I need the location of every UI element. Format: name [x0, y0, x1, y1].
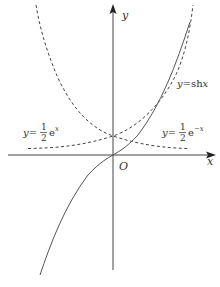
svg-text:y=shx: y=shx — [176, 78, 209, 89]
label-half-exp-pos-exp: x — [55, 125, 59, 133]
label-sinh-var: x — [203, 78, 209, 89]
y-axis-label: y — [121, 9, 129, 22]
label-sinh-func: sh — [191, 78, 203, 89]
origin-label: O — [119, 160, 128, 173]
x-axis-label: x — [207, 155, 214, 168]
function-graph-canvas: y x O y=shx y= 1 2 e x y= 1 2 e −x — [0, 0, 220, 287]
label-half-exp-pos-num: 1 — [41, 122, 47, 132]
label-sinh-prefix: y= — [176, 78, 191, 89]
label-sinh: y=shx — [176, 78, 209, 89]
label-half-exp-neg-den: 2 — [180, 133, 186, 143]
curve-sinh — [40, 22, 190, 275]
label-half-exp-neg: y= 1 2 e −x — [161, 122, 204, 143]
label-half-exp-pos: y= 1 2 e x — [22, 122, 59, 143]
label-half-exp-neg-num: 1 — [180, 122, 186, 132]
label-half-exp-neg-prefix: y= — [161, 127, 176, 138]
graph-svg: y x O y=shx y= 1 2 e x y= 1 2 e −x — [0, 0, 220, 287]
label-half-exp-pos-prefix: y= — [22, 127, 37, 138]
label-half-exp-neg-exp: −x — [194, 125, 204, 133]
label-half-exp-pos-den: 2 — [41, 133, 47, 143]
x-axis — [8, 152, 216, 159]
